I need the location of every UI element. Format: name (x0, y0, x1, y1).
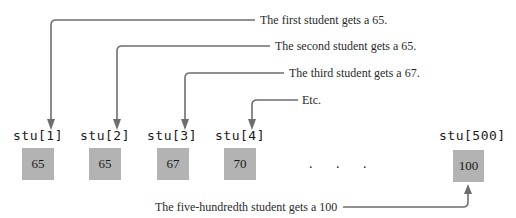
array-cell-500: 100 (453, 150, 484, 182)
annotation-second: The second student gets a 65. (275, 39, 416, 53)
cell-value: 65 (32, 156, 45, 172)
array-cell-1: 65 (22, 148, 54, 180)
cell-value: 67 (167, 156, 180, 172)
ellipsis: . . . (309, 156, 377, 172)
index-label-3: stu[3] (147, 128, 197, 143)
arrow-etc (252, 100, 298, 120)
annotation-etc: Etc. (302, 93, 321, 107)
index-label-1: stu[1] (13, 128, 63, 143)
array-cell-2: 65 (89, 148, 121, 180)
array-cell-4: 70 (224, 148, 256, 180)
cell-value: 65 (99, 156, 112, 172)
index-label-2: stu[2] (80, 128, 130, 143)
index-label-4: stu[4] (215, 128, 265, 143)
arrow-second (117, 46, 270, 120)
arrow-fivehundredth (343, 193, 468, 207)
index-label-500: stu[500] (439, 128, 506, 143)
annotation-third: The third student gets a 67. (289, 66, 420, 80)
arrow-first (51, 20, 255, 120)
cell-value: 100 (459, 158, 479, 174)
annotation-fivehundredth: The five-hundredth student gets a 100 (155, 200, 337, 214)
arrow-third (185, 73, 284, 120)
cell-value: 70 (234, 156, 247, 172)
arrows-layer (0, 0, 516, 218)
array-cell-3: 67 (157, 148, 189, 180)
annotation-first: The first student gets a 65. (260, 13, 387, 27)
